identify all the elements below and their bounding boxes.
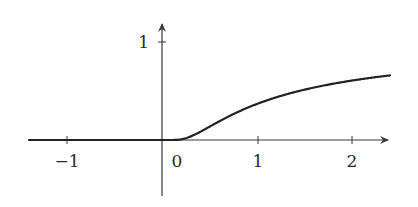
x-tick-label: 1 (253, 151, 264, 171)
y-tick-label: 1 (138, 32, 149, 52)
x-tick-label: −1 (54, 151, 79, 171)
x-tick-label: 0 (172, 151, 183, 171)
x-tick-label: 2 (347, 151, 358, 171)
curve-line (29, 75, 390, 140)
chart: −1 0 1 2 1 (0, 0, 418, 207)
